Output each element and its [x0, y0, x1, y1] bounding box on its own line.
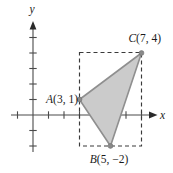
vertex-dot-c: [139, 51, 144, 56]
triangle-diagram-svg: y x A(3, 1) B(5, −2) C(7, 4): [0, 0, 173, 173]
triangle-abc: [80, 53, 142, 146]
vertex-dot-b: [108, 144, 113, 149]
point-label-c: C(7, 4): [128, 32, 161, 45]
point-coords-b: (5, −2): [97, 153, 129, 166]
point-name-b: B: [90, 153, 97, 165]
point-coords-c: (7, 4): [136, 32, 161, 45]
x-axis-arrowhead-icon: [149, 112, 158, 119]
y-axis-arrowhead-icon: [30, 21, 37, 30]
x-axis-label: x: [159, 109, 166, 121]
coordinate-plane-figure: y x A(3, 1) B(5, −2) C(7, 4): [0, 0, 173, 173]
point-coords-a: (3, 1): [53, 93, 78, 106]
point-label-a: A(3, 1): [45, 93, 78, 106]
point-label-b: B(5, −2): [90, 153, 129, 166]
y-axis-label: y: [28, 3, 35, 16]
